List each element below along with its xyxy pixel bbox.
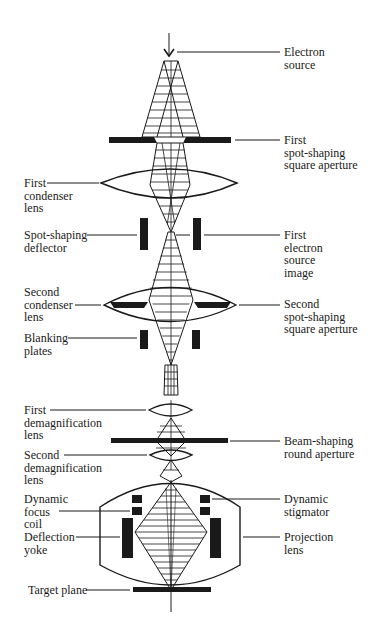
label-deflection-yoke: Deflection yoke (24, 531, 75, 556)
label-first-condenser: First condenser lens (24, 177, 73, 215)
deflection-yoke-right (210, 518, 221, 558)
beam-section-4 (164, 365, 178, 395)
first-condenser-lens (101, 169, 237, 198)
label-first-demag: First demagnification lens (24, 404, 102, 442)
label-target-plane: Target plane (28, 584, 87, 597)
beam-projection (130, 480, 212, 612)
spot-deflector-right-plate (193, 218, 201, 250)
deflection-yoke-left (122, 518, 133, 558)
label-blanking-plates: Blanking plates (24, 332, 68, 357)
label-first-source-image: First electron source image (284, 229, 323, 279)
beam-section-2 (140, 143, 200, 232)
blanking-plate-left (140, 330, 148, 349)
stigmator-upper-right (200, 495, 210, 503)
second-square-aperture (110, 302, 231, 308)
target-plane (133, 587, 211, 592)
label-first-aperture: First spot-shaping square aperture (284, 134, 358, 172)
beam-section-3 (140, 232, 200, 365)
spot-deflector-left-plate (140, 218, 148, 250)
stigmator-lower-right (200, 507, 210, 515)
label-dynamic-stigmator: Dynamic stigmator (284, 493, 329, 518)
beam-cone-1 (130, 61, 210, 137)
label-spot-deflector: Spot-shaping deflector (24, 229, 87, 254)
first-demag-lens (149, 404, 192, 416)
label-dynamic-focus: Dynamic focus coil (24, 493, 68, 531)
label-second-condenser: Second condenser lens (24, 286, 73, 324)
label-round-aperture: Beam-shaping round aperture (284, 435, 354, 460)
focus-coil-upper-left (132, 495, 142, 503)
label-second-aperture: Second spot-shaping square aperture (284, 298, 358, 336)
first-square-aperture (109, 137, 231, 143)
focus-coil-lower-left (132, 507, 142, 515)
label-second-demag: Second demagnification lens (24, 449, 102, 487)
blanking-plate-right (192, 330, 200, 349)
label-electron-source: Electron source (284, 46, 325, 71)
label-projection-lens: Projection lens (284, 531, 333, 556)
round-aperture (111, 438, 228, 443)
